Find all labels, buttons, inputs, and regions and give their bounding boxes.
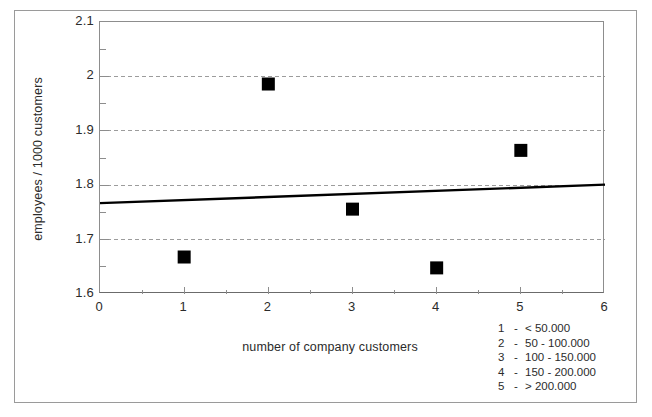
data-markers (178, 78, 528, 275)
trendline (100, 185, 605, 203)
data-point (430, 261, 443, 274)
chart-figure: 1.61.71.81.922.1 0123456 number of compa… (0, 0, 652, 417)
legend-separator: - (514, 321, 525, 336)
x-tick-label: 4 (421, 300, 451, 313)
y-tick-label: 1.6 (75, 286, 94, 299)
y-tick-label: 1.9 (75, 123, 94, 136)
x-tick-label: 3 (337, 300, 367, 313)
legend-label: 100 - 150.000 (525, 351, 596, 363)
legend-key: 2 (498, 336, 514, 351)
y-tick-label: 2.1 (75, 14, 94, 27)
y-tick-label: 1.7 (75, 232, 94, 245)
x-tick-label: 5 (505, 300, 535, 313)
legend-separator: - (514, 365, 525, 380)
legend-label: 50 - 100.000 (525, 337, 590, 349)
legend-label: > 200.000 (525, 380, 576, 392)
legend-item: 3-100 - 150.000 (498, 350, 596, 365)
y-tick-label: 2 (87, 68, 94, 81)
legend-key: 1 (498, 321, 514, 336)
data-point (346, 203, 359, 216)
legend-item: 1-< 50.000 (498, 321, 596, 336)
data-point (514, 144, 527, 157)
legend-item: 5-> 200.000 (498, 379, 596, 394)
data-point (262, 78, 275, 91)
legend-label: < 50.000 (525, 322, 570, 334)
x-tick-label: 6 (589, 300, 619, 313)
x-major-ticks (184, 287, 521, 294)
legend-separator: - (514, 350, 525, 365)
legend-label: 150 - 200.000 (525, 366, 596, 378)
legend: 1-< 50.0002-50 - 100.0003-100 - 150.0004… (498, 321, 596, 394)
plot-area (99, 21, 604, 293)
legend-separator: - (514, 379, 525, 394)
legend-key: 3 (498, 350, 514, 365)
legend-key: 5 (498, 379, 514, 394)
x-axis-tick-labels: 0123456 (0, 300, 652, 320)
legend-item: 4-150 - 200.000 (498, 365, 596, 380)
x-tick-label: 1 (168, 300, 198, 313)
x-tick-label: 0 (84, 300, 114, 313)
data-point (178, 251, 191, 264)
x-tick-label: 2 (252, 300, 282, 313)
legend-key: 4 (498, 365, 514, 380)
y-minor-ticks (100, 49, 106, 267)
y-tick-label: 1.8 (75, 177, 94, 190)
legend-separator: - (514, 336, 525, 351)
legend-item: 2-50 - 100.000 (498, 336, 596, 351)
plot-svg (100, 22, 605, 294)
y-axis-title: employees / 1000 customers (31, 59, 45, 259)
x-axis-title: number of company customers (180, 340, 480, 354)
